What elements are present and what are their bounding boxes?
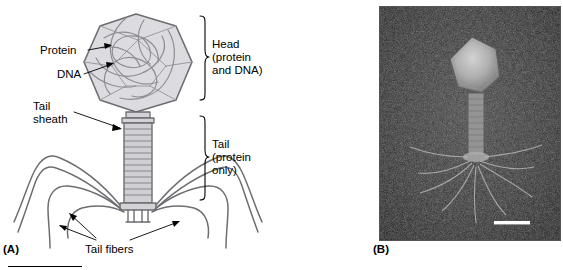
- phage-neck: [122, 112, 154, 123]
- label-tail-fibers: Tail fibers: [85, 243, 134, 256]
- panel-a-diagram: Protein DNA Tail sheath Head (protein an…: [0, 0, 300, 270]
- figure-container: Protein DNA Tail sheath Head (protein an…: [0, 0, 563, 270]
- panel-a-letter: (A): [3, 243, 19, 255]
- base-plate: [120, 203, 156, 222]
- micrograph-svg: [380, 7, 560, 240]
- label-dna: DNA: [57, 68, 81, 81]
- head-bracket: [200, 16, 209, 100]
- scale-bar: [494, 221, 530, 224]
- label-tail-sheath: Tail sheath: [33, 100, 68, 126]
- label-protein: Protein: [40, 44, 76, 57]
- label-tail: Tail (protein only): [212, 138, 251, 178]
- bottom-rule: [8, 266, 82, 267]
- panel-b-letter: (B): [373, 243, 389, 255]
- panel-b-micrograph: [379, 6, 561, 241]
- tail-sheath-shape: [124, 123, 152, 203]
- label-head: Head (protein and DNA): [212, 38, 263, 78]
